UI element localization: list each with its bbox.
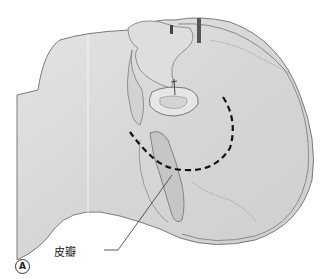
suture-top-2: [197, 18, 201, 43]
ear-inner: [160, 96, 187, 109]
suture-top-1: [170, 25, 173, 34]
panel-letter: A: [15, 259, 30, 274]
flap-label: 皮瓣: [54, 243, 76, 259]
surgical-head-illustration: [0, 0, 329, 279]
